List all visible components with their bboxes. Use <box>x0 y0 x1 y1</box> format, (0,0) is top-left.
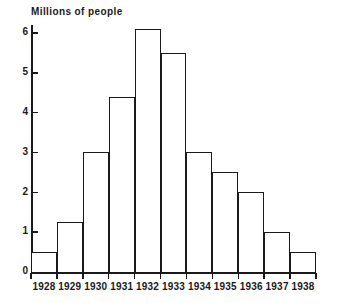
y-axis-tick: 3 <box>32 152 38 154</box>
y-axis-tick-label: 5 <box>22 66 28 77</box>
bar-1937 <box>264 232 290 272</box>
bar-1930 <box>83 152 109 272</box>
x-axis-tick <box>108 273 110 279</box>
bar-1933 <box>161 53 187 272</box>
y-axis-tick: 6 <box>32 32 38 34</box>
bar-1928 <box>31 252 57 272</box>
y-axis-tick: 4 <box>32 112 38 114</box>
x-axis-tick <box>160 273 162 279</box>
bar-1931 <box>109 97 135 272</box>
x-axis-tick <box>238 273 240 279</box>
y-axis-tick: 1 <box>32 231 38 233</box>
x-axis-tick <box>315 273 317 279</box>
bar-1935 <box>212 172 238 272</box>
x-axis-tick-label: 1938 <box>290 281 316 292</box>
bar-1936 <box>238 192 264 272</box>
bar-1932 <box>135 29 161 272</box>
bar-1938 <box>290 252 316 272</box>
y-axis-tick-label: 1 <box>22 225 28 236</box>
y-axis-tick: 5 <box>32 72 38 74</box>
x-axis-tick-label: 1932 <box>135 281 161 292</box>
x-axis-tick-label: 1933 <box>161 281 187 292</box>
bar-1934 <box>186 152 212 272</box>
y-axis-title: Millions of people <box>31 6 123 17</box>
x-axis-tick <box>134 273 136 279</box>
plot-area: 6543210 19281929193019311932193319341935… <box>31 25 316 272</box>
x-axis-tick-label: 1929 <box>57 281 83 292</box>
bar-1929 <box>57 222 83 272</box>
x-axis-tick <box>186 273 188 279</box>
x-axis-tick <box>289 273 291 279</box>
x-axis-tick-label: 1937 <box>264 281 290 292</box>
y-axis-tick-label: 6 <box>22 26 28 37</box>
y-axis-tick: 2 <box>32 192 38 194</box>
y-axis-tick-label: 4 <box>22 106 28 117</box>
y-axis-tick-label: 0 <box>22 265 28 276</box>
y-axis-tick-label: 2 <box>22 186 28 197</box>
chart-screenshot: Millions of people 6543210 1928192919301… <box>0 0 339 303</box>
x-axis-tick-label: 1936 <box>238 281 264 292</box>
x-axis-tick-label: 1931 <box>109 281 135 292</box>
y-axis-tick-label: 3 <box>22 146 28 157</box>
x-axis-tick <box>212 273 214 279</box>
y-axis-line <box>31 25 33 272</box>
x-axis-tick-label: 1928 <box>31 281 57 292</box>
x-axis-tick <box>56 273 58 279</box>
x-axis-tick-label: 1930 <box>83 281 109 292</box>
x-axis-tick <box>30 273 32 279</box>
x-axis-tick <box>82 273 84 279</box>
x-axis-line <box>31 272 316 274</box>
x-axis-tick-label: 1935 <box>212 281 238 292</box>
x-axis-tick-label: 1934 <box>186 281 212 292</box>
x-axis-tick <box>263 273 265 279</box>
